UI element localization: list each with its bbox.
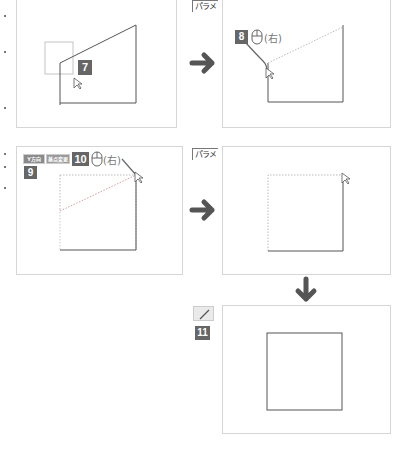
mouse-right-label: (右) <box>103 152 121 167</box>
edge-mark <box>4 153 6 155</box>
step-badge-8: 8 <box>235 30 248 44</box>
arrow-right-icon <box>190 199 218 221</box>
param-tab-middle[interactable]: パラメ <box>192 148 218 160</box>
panel-result-preview <box>222 146 391 275</box>
panel-step-8: 8 (右) <box>222 0 391 128</box>
edge-mark <box>4 15 6 17</box>
arrow-down-icon <box>293 277 319 305</box>
param-tab-top[interactable]: パラメ <box>192 0 218 12</box>
mouse-icon <box>91 151 103 167</box>
step-badge-7: 7 <box>78 60 92 75</box>
edge-mark <box>4 166 6 168</box>
edge-mark <box>4 107 6 109</box>
arrow-right-icon <box>190 52 218 74</box>
change-base-point-button[interactable]: 基点変更 <box>46 154 70 164</box>
y-direction-button[interactable]: Y方向 <box>23 154 45 164</box>
open-shape <box>223 0 392 129</box>
step-badge-10: 10 <box>72 152 89 166</box>
completed-square <box>223 306 392 435</box>
cursor-icon <box>135 172 143 183</box>
edge-mark <box>4 187 6 189</box>
mouse-right-label: (右) <box>264 30 282 45</box>
cursor-icon <box>342 173 350 184</box>
line-tool-icon <box>194 307 215 322</box>
edge-mark <box>4 51 6 53</box>
step-badge-9: 9 <box>24 166 37 179</box>
panel-step-7: 7 <box>16 0 177 128</box>
step-badge-11: 11 <box>195 326 210 340</box>
trapezoid-shape <box>17 0 178 129</box>
line-tool-button[interactable] <box>193 306 214 321</box>
panel-step-9-10: Y方向 基点変更 9 10 (右) <box>16 146 183 275</box>
dotted-square <box>223 147 392 276</box>
mouse-icon <box>251 29 263 45</box>
cursor-icon <box>74 78 82 89</box>
cursor-icon <box>266 68 274 79</box>
panel-step-11 <box>222 305 391 434</box>
